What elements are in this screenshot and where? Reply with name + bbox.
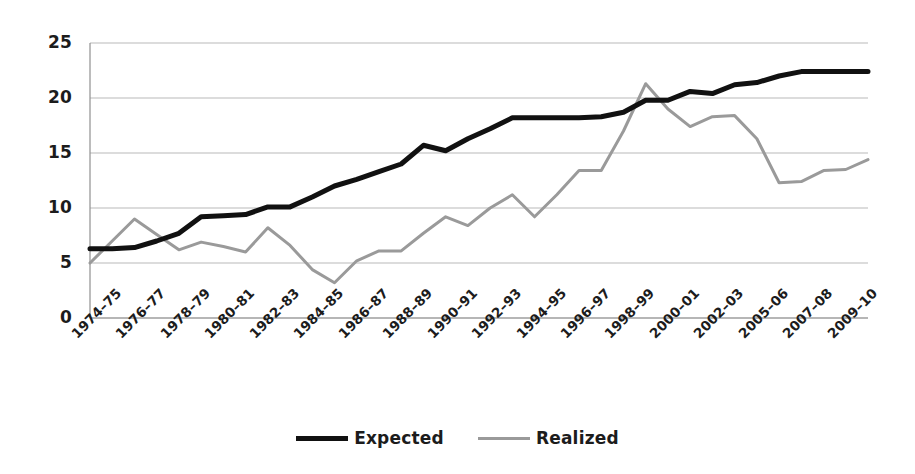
y-axis-tick-label: 0 bbox=[28, 307, 72, 327]
legend-line-expected-icon bbox=[296, 436, 348, 441]
y-axis-tick-label: 15 bbox=[28, 142, 72, 162]
legend-item-realized[interactable]: Realized bbox=[478, 428, 619, 448]
line-chart: 0510152025 1974–751976–771978–791980–811… bbox=[0, 0, 915, 474]
series-line-realized bbox=[90, 84, 868, 283]
data-series-group bbox=[90, 72, 868, 283]
y-axis-tick-label: 25 bbox=[28, 32, 72, 52]
legend-label-expected: Expected bbox=[354, 428, 444, 448]
chart-legend: Expected Realized bbox=[0, 428, 915, 448]
y-axis-tick-label: 20 bbox=[28, 87, 72, 107]
legend-line-realized-icon bbox=[478, 437, 530, 440]
legend-item-expected[interactable]: Expected bbox=[296, 428, 444, 448]
legend-label-realized: Realized bbox=[536, 428, 619, 448]
chart-canvas bbox=[0, 0, 915, 474]
y-axis-tick-label: 5 bbox=[28, 252, 72, 272]
y-axis-tick-label: 10 bbox=[28, 197, 72, 217]
